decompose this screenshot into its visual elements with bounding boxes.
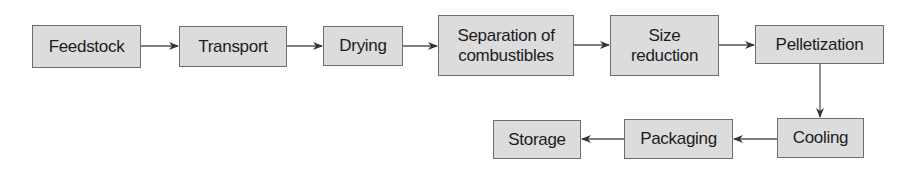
node-separation: Separation of combustibles	[438, 15, 574, 76]
node-label-line2: combustibles	[458, 46, 554, 66]
node-label: Feedstock	[49, 37, 125, 57]
node-pelletization: Pelletization	[755, 25, 884, 64]
node-label-line2: reduction	[631, 46, 698, 66]
node-label-line1: Size	[649, 26, 681, 46]
node-label: Transport	[198, 37, 267, 57]
node-cooling: Cooling	[777, 118, 864, 158]
node-storage: Storage	[493, 120, 581, 159]
node-size-reduction: Size reduction	[610, 15, 719, 76]
node-drying: Drying	[323, 26, 403, 66]
node-label: Packaging	[640, 129, 717, 149]
node-label: Pelletization	[776, 35, 864, 55]
node-packaging: Packaging	[624, 119, 733, 159]
node-feedstock: Feedstock	[32, 25, 141, 68]
node-label: Cooling	[793, 128, 849, 148]
node-label-line1: Separation of	[457, 26, 554, 46]
node-transport: Transport	[179, 26, 287, 67]
node-label: Drying	[339, 36, 386, 56]
node-label: Storage	[508, 130, 565, 150]
